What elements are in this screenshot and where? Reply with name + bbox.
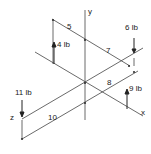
dimension-label-5: 5 [67, 22, 72, 31]
z-axis-label: z [10, 113, 14, 122]
force-label-6lb: 6 lb [125, 23, 138, 32]
force-label-4lb: 4 lb [57, 40, 70, 49]
dimension-label-8: 8 [107, 78, 112, 87]
dimension-label-10: 10 [48, 113, 57, 122]
parallel-line-lower [22, 71, 138, 139]
y-axis-label: y [88, 7, 92, 16]
force-label-11lb: 11 lb [15, 88, 32, 97]
x-axis-label: x [141, 108, 145, 117]
dimension-label-7: 7 [106, 46, 111, 55]
force-label-9lb: 9 lb [129, 84, 142, 93]
force-system-diagram: y x z 4 lb 6 lb 9 lb 11 lb 5 7 8 10 [0, 0, 151, 154]
z-axis [22, 48, 143, 119]
